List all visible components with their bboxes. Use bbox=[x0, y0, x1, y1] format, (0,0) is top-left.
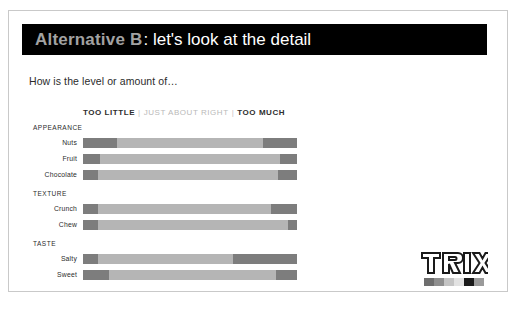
bar-segment-too-much bbox=[271, 204, 297, 214]
bar-segment-too-much bbox=[263, 138, 297, 148]
logo-swatch-4 bbox=[454, 278, 464, 286]
section-header-taste: TASTE bbox=[33, 240, 56, 247]
logo-swatch-3 bbox=[444, 278, 454, 286]
logo-swatch-1 bbox=[424, 278, 434, 286]
trix-logo bbox=[420, 250, 488, 294]
stacked-bar bbox=[83, 154, 297, 164]
bar-segment-too-little bbox=[83, 270, 109, 280]
row-label-chew: Chew bbox=[9, 219, 77, 231]
bar-segment-just-about-right bbox=[100, 154, 280, 164]
row-label-nuts: Nuts bbox=[9, 137, 77, 149]
logo-swatch-5 bbox=[464, 278, 474, 286]
row-label-crunch: Crunch bbox=[9, 203, 77, 215]
bar-segment-just-about-right bbox=[98, 204, 271, 214]
bar-segment-too-much bbox=[276, 270, 297, 280]
row-label-chocolate: Chocolate bbox=[9, 169, 77, 181]
stacked-bar bbox=[83, 204, 297, 214]
bar-segment-too-little bbox=[83, 170, 98, 180]
bar-segment-just-about-right bbox=[109, 270, 276, 280]
row-label-sweet: Sweet bbox=[9, 269, 77, 281]
bar-segment-too-little bbox=[83, 154, 100, 164]
stacked-bar bbox=[83, 254, 297, 264]
logo-swatch-2 bbox=[434, 278, 444, 286]
bar-segment-too-little bbox=[83, 220, 98, 230]
trix-wordmark-icon bbox=[420, 250, 488, 276]
bar-segment-too-much bbox=[278, 170, 297, 180]
slide-frame: Alternative B : let's look at the detail… bbox=[8, 10, 508, 292]
section-header-texture: TEXTURE bbox=[33, 190, 67, 197]
stacked-bar bbox=[83, 270, 297, 280]
bar-segment-too-little bbox=[83, 204, 98, 214]
section-header-appearance: APPEARANCE bbox=[33, 124, 82, 131]
stacked-bar bbox=[83, 170, 297, 180]
bar-segment-too-much bbox=[288, 220, 297, 230]
stacked-bar bbox=[83, 138, 297, 148]
bar-segment-just-about-right bbox=[117, 138, 263, 148]
bar-segment-too-much bbox=[233, 254, 297, 264]
row-label-fruit: Fruit bbox=[9, 153, 77, 165]
bar-segment-just-about-right bbox=[98, 254, 233, 264]
trix-logo-swatches bbox=[424, 278, 484, 286]
bar-segment-too-much bbox=[280, 154, 297, 164]
bar-segment-too-little bbox=[83, 138, 117, 148]
bar-segment-too-little bbox=[83, 254, 98, 264]
logo-swatch-6 bbox=[474, 278, 484, 286]
bar-segment-just-about-right bbox=[98, 170, 278, 180]
bar-segment-just-about-right bbox=[98, 220, 288, 230]
stacked-bar bbox=[83, 220, 297, 230]
row-label-salty: Salty bbox=[9, 253, 77, 265]
